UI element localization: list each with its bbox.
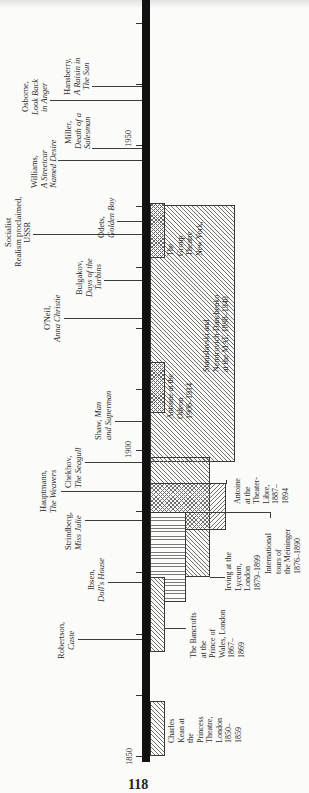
play-title: Days of the Turbins: [84, 258, 104, 297]
period-label-antoine-libre: Antoine at the Theater- Libre, 1887– 189…: [233, 464, 290, 504]
decade-tick: [136, 634, 142, 635]
author: Hauptmann,: [38, 471, 48, 513]
year-label-1850: 1850: [125, 746, 135, 768]
period-box-group-theatre: [150, 203, 165, 258]
event-label-hansberry: Hansberry, A Raisin in The Sun: [63, 55, 92, 98]
year-label-1900: 1900: [124, 439, 134, 461]
connector-williams: [58, 160, 142, 161]
connector-ibsen: [108, 582, 142, 583]
decade-tick: [136, 145, 142, 146]
scan-edge-band: [0, 0, 309, 7]
event-text: Socialist Realism proclaimed, USSR: [3, 197, 32, 267]
period-label-irving: Irving at the Lyceum, London 1879–1899: [224, 538, 262, 591]
connector-meininger: [186, 512, 270, 513]
connector-shaw: [115, 421, 142, 422]
author: Ibsen,: [86, 570, 96, 591]
event-label-odets: Odets, Golden Boy: [97, 198, 116, 238]
period-label-bancrofts: The Bancrofts at the Prince of Wales, Lo…: [189, 596, 246, 658]
period-label-antoine-odeon: Antoine at the Odeon 1906–1914: [166, 359, 195, 419]
play-title: A Streetcar Named Desire: [39, 139, 59, 188]
event-label-oneil: O'Neil, Anna Christie: [43, 289, 62, 347]
event-label-strindberg: Strindberg, Miss Julie: [64, 494, 83, 550]
play-title: Death of a Salesman: [73, 113, 93, 149]
decade-tick: [136, 450, 142, 451]
connector-hansberry: [92, 86, 142, 87]
event-label-bulgakov: Bulgakov, Days of the Turbins: [75, 252, 104, 303]
connector-hauptmann: [61, 491, 142, 492]
event-label-osborne: Osborne, Look Back in Anger: [21, 77, 50, 117]
period-box-antoine-odeon: [150, 362, 165, 413]
author: Robertson,: [56, 621, 66, 658]
connector-chekhov: [85, 462, 142, 463]
event-label-miller: Miller, Death of a Salesman: [64, 116, 93, 149]
decade-tick: [136, 267, 142, 268]
event-label-williams: Williams, A Streetcar Named Desire: [30, 126, 59, 188]
period-label-group-theatre: The Group Theatre New York,: [166, 207, 204, 256]
event-label-socialist-realism: Socialist Realism proclaimed, USSR: [4, 189, 33, 275]
decade-tick: [136, 572, 142, 573]
page-number: 118: [128, 777, 148, 793]
play-title: Miss Julie: [73, 515, 83, 550]
connector-socialist-realism: [33, 234, 142, 235]
event-label-hauptmann: Hauptmann, The Weavers: [39, 464, 58, 519]
author: Miller,: [63, 121, 73, 144]
timeline-spine: [142, 0, 150, 762]
connector-odets: [117, 221, 142, 222]
connector-oneil: [64, 318, 142, 319]
event-label-ibsen: Ibsen, Doll's House: [87, 552, 106, 608]
author: Osborne,: [20, 82, 30, 113]
year-label-1950: 1950: [124, 128, 134, 150]
author: Strindberg,: [63, 512, 73, 550]
author: Chekhov,: [63, 456, 73, 488]
decade-tick: [136, 389, 142, 390]
event-label-robertson: Robertson, Caste: [57, 616, 76, 664]
connector-antoine-libre-tick: [226, 480, 227, 484]
author: Bulgakov,: [74, 260, 84, 295]
connector-miller: [92, 148, 142, 149]
period-label-meininger: International tours of the Meininger 187…: [264, 517, 302, 574]
period-box-bancrofts: [150, 577, 165, 652]
play-title: A Raisin in The Sun: [72, 58, 92, 96]
event-label-chekhov: Chekhov, The Seagull: [64, 432, 83, 488]
connector-osborne: [50, 100, 142, 101]
decade-tick: [136, 756, 142, 757]
connector-irving: [210, 577, 225, 578]
period-box-kean: [150, 701, 165, 756]
decade-tick: [136, 511, 142, 512]
play-title: Anna Christie: [52, 294, 62, 341]
author: Hansberry,: [62, 58, 72, 95]
play-title: The Seagull: [73, 448, 83, 488]
connector-bulgakov: [104, 280, 142, 281]
period-label-kean: Charles Kean at the Princess Theatre, Lo…: [167, 700, 243, 743]
play-title: The Weavers: [48, 470, 58, 513]
decade-tick: [136, 328, 142, 329]
author: Williams,: [29, 155, 39, 188]
event-label-shaw: Shaw, Man and Superman: [94, 384, 113, 440]
decade-tick: [136, 84, 142, 85]
author: O'Neil,: [42, 306, 52, 330]
period-label-mat: Stanislavski and Nemirovich-Danchenko at…: [202, 268, 231, 372]
decade-tick: [136, 23, 142, 24]
author: Shaw,: [93, 417, 103, 440]
play-title: Doll's House: [96, 558, 106, 602]
play-title: Golden Boy: [106, 198, 116, 238]
decade-tick: [136, 206, 142, 207]
author: Odets,: [96, 216, 106, 238]
play-title: Look Back in Anger: [30, 79, 50, 115]
connector-robertson: [78, 639, 142, 640]
connector-bancrofts: [165, 628, 186, 629]
connector-strindberg: [85, 520, 142, 521]
play-title: Caste: [66, 630, 76, 649]
decade-tick: [136, 695, 142, 696]
